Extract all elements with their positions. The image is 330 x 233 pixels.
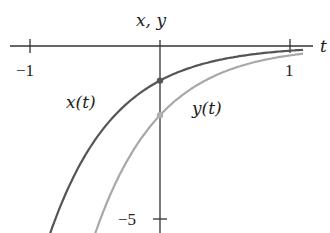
tick-label-neg5: −5	[118, 210, 136, 229]
series-y-curve	[92, 54, 303, 233]
series-x-curve	[48, 50, 303, 233]
axis-label-t: t	[320, 36, 327, 56]
x0-marker	[157, 77, 163, 83]
series-label-x: x(t)	[66, 92, 96, 112]
tick-label-pos1: 1	[285, 61, 294, 80]
series-label-y: y(t)	[191, 98, 222, 118]
tick-label-neg1: −1	[16, 61, 34, 80]
y0-marker	[157, 112, 163, 118]
chart-canvas: x, y t −1 1 −5 x(t) y(t)	[0, 0, 330, 233]
axis-label-xy: x, y	[136, 10, 166, 30]
